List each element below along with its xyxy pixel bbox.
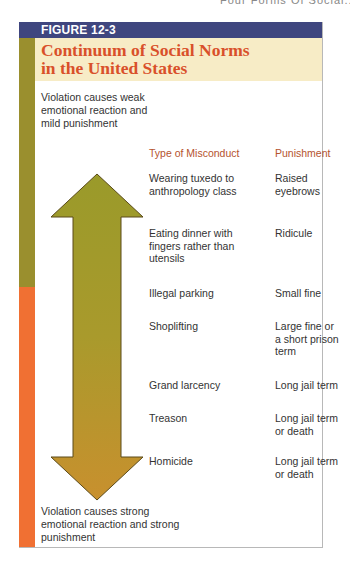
strong-violation-caption: Violation causes strong emotional reacti… [41, 505, 181, 544]
misconduct-cell: Eating dinner with fingers rather than u… [149, 227, 249, 265]
figure-label-bar: FIGURE 12-3 [19, 22, 322, 38]
running-header: Four Forms Of Social... [220, 0, 350, 4]
mild-violation-caption: Violation causes weak emotional reaction… [41, 91, 151, 130]
misconduct-cell: Wearing tuxedo to anthropology class [149, 172, 249, 197]
punishment-cell: Long jail term [275, 379, 341, 392]
misconduct-cell: Shoplifting [149, 320, 249, 333]
side-bar-severe [19, 287, 35, 547]
misconduct-cell: Homicide [149, 455, 249, 468]
punishment-cell: Raised eyebrows [275, 172, 341, 197]
title-band: Continuum of Social Norms in the United … [35, 38, 322, 81]
punishment-cell: Long jail term or death [275, 455, 341, 480]
punishment-cell: Large fine or a short prison term [275, 320, 341, 358]
column-heading-misconduct: Type of Misconduct [149, 147, 239, 159]
column-heading-punishment: Punishment [275, 147, 330, 159]
double-arrow-icon [49, 172, 145, 502]
misconduct-cell: Illegal parking [149, 287, 249, 300]
figure-label: FIGURE 12-3 [41, 23, 116, 37]
figure-title: Continuum of Social Norms in the United … [41, 41, 250, 77]
punishment-cell: Long jail term or death [275, 412, 341, 437]
side-bar-mild [19, 38, 35, 287]
misconduct-cell: Grand larcency [149, 379, 249, 392]
figure-title-line1: Continuum of Social Norms [41, 41, 250, 59]
figure-box: FIGURE 12-3 Continuum of Social Norms in… [19, 22, 323, 548]
misconduct-cell: Treason [149, 412, 249, 425]
punishment-cell: Small fine [275, 287, 341, 300]
figure-title-line2: in the United States [41, 59, 250, 77]
punishment-cell: Ridicule [275, 227, 341, 240]
